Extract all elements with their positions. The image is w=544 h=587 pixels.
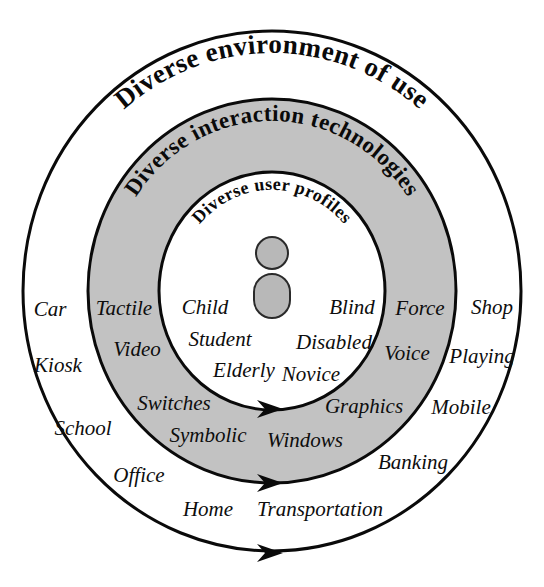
design-space-diagram: Diverse environment of use Diverse inter…	[0, 0, 544, 587]
environment-term-kiosk: Kiosk	[33, 353, 83, 377]
environment-term-mobile: Mobile	[430, 395, 490, 419]
environment-term-home: Home	[182, 497, 233, 521]
environment-term-car: Car	[34, 297, 68, 321]
environment-term-school: School	[54, 416, 111, 440]
user-profile-term-novice: Novice	[281, 362, 340, 386]
user-profile-term-disabled: Disabled	[295, 330, 372, 354]
person-head	[256, 237, 288, 269]
interaction-term-force: Force	[394, 296, 444, 320]
interaction-term-voice: Voice	[384, 341, 429, 365]
user-profile-term-elderly: Elderly	[212, 358, 275, 382]
environment-term-transportation: Transportation	[257, 497, 383, 521]
diagram-canvas: Diverse environment of use Diverse inter…	[0, 0, 544, 587]
interaction-term-video: Video	[113, 337, 160, 361]
user-profile-term-blind: Blind	[329, 295, 375, 319]
interaction-term-symbolic: Symbolic	[170, 423, 248, 447]
user-profile-term-child: Child	[182, 295, 229, 319]
interaction-term-graphics: Graphics	[325, 394, 403, 418]
environment-term-shop: Shop	[471, 295, 513, 319]
person-body	[254, 274, 290, 318]
interaction-term-tactile: Tactile	[96, 296, 152, 320]
interaction-term-switches: Switches	[137, 391, 211, 415]
user-profile-term-student: Student	[189, 327, 253, 351]
environment-term-banking: Banking	[378, 450, 448, 474]
environment-term-playing: Playing	[448, 344, 514, 368]
environment-term-office: Office	[113, 463, 164, 487]
interaction-term-windows: Windows	[267, 428, 343, 452]
